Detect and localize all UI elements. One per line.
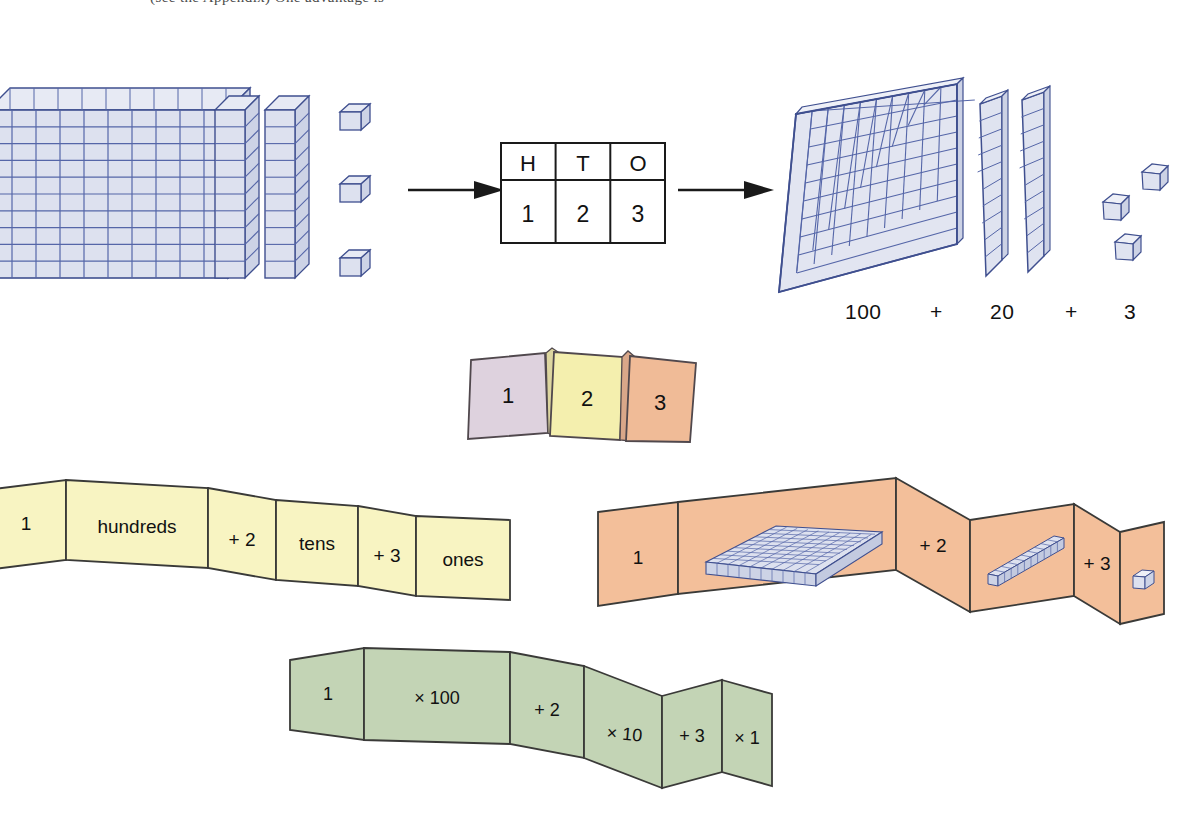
tens-rod-1 (215, 96, 259, 278)
ones-cube-2 (340, 176, 370, 202)
orange-panel-3-label: + 2 (920, 535, 947, 556)
digit-cards-group: 1 2 3 (468, 348, 698, 448)
tens-rod-perspective-1 (978, 90, 1008, 276)
ones-cube-perspective-2 (1142, 164, 1168, 190)
orange-panel-4[interactable] (970, 504, 1074, 612)
orange-panel-5[interactable]: + 3 (1074, 504, 1120, 624)
digit-card-3-label: 3 (654, 390, 666, 415)
green-panel-6-label: × 1 (734, 728, 760, 748)
hundreds-flat-perspective (779, 78, 975, 292)
orange-panel-6[interactable] (1120, 522, 1164, 624)
yellow-panel-2-label: hundreds (97, 516, 176, 537)
yellow-panel-2[interactable]: hundreds (66, 480, 208, 568)
digit-card-2-label: 2 (581, 386, 593, 411)
orange-panel-1-label: 1 (633, 547, 644, 568)
yellow-panel-5-label: + 3 (374, 545, 401, 566)
green-panel-2-label: × 100 (414, 688, 460, 708)
orange-panel-2[interactable] (678, 478, 896, 594)
green-panel-4[interactable]: × 10 (584, 666, 662, 788)
multiplicative-expanded-form-strip: 1 × 100 + 2 × 10 + 3 × 1 (288, 638, 808, 783)
green-panel-2[interactable]: × 100 (364, 648, 510, 744)
hundreds-flat (0, 88, 250, 278)
green-panel-5-label: + 3 (679, 726, 705, 746)
orange-panel-1[interactable]: 1 (598, 502, 678, 606)
pictorial-expanded-form-strip: 1 (596, 474, 1177, 604)
yellow-panel-4[interactable]: tens (276, 500, 358, 586)
table-value-o: 3 (632, 201, 645, 227)
yellow-panel-6[interactable]: ones (416, 516, 510, 600)
green-panel-4-label: × 10 (606, 723, 643, 746)
green-panel-3-label: + 2 (534, 700, 560, 720)
digit-card-3[interactable]: 3 (620, 351, 696, 442)
digit-card-2[interactable]: 2 (546, 348, 624, 440)
table-value-t: 2 (577, 201, 590, 227)
green-panel-3[interactable]: + 2 (510, 652, 584, 758)
table-header-h: H (520, 151, 536, 176)
arrow-blocks-to-table (406, 178, 514, 202)
digit-card-1[interactable]: 1 (468, 353, 548, 439)
yellow-panel-3[interactable]: + 2 (208, 488, 276, 580)
base-ten-blocks-frontal (0, 78, 398, 288)
diagram-canvas: (see the Appendix) One advantage is (0, 0, 1177, 819)
place-value-table: H T O 1 2 3 (500, 142, 668, 246)
green-panel-1[interactable]: 1 (290, 648, 364, 740)
ones-cube-perspective-3 (1115, 234, 1141, 260)
label-ones-value: 3 (1124, 300, 1136, 324)
label-plus-2: + (1065, 300, 1078, 324)
green-panel-1-label: 1 (323, 684, 333, 704)
orange-panel-3[interactable]: + 2 (896, 478, 970, 612)
yellow-panel-6-label: ones (442, 549, 483, 570)
table-value-h: 1 (522, 201, 535, 227)
ones-cube-perspective-1 (1103, 194, 1129, 220)
yellow-panel-4-label: tens (299, 533, 335, 554)
tens-rod-perspective-2 (1020, 86, 1050, 272)
tens-rod-2 (265, 96, 309, 278)
word-expanded-form-strip: 1 hundreds + 2 tens + 3 ones (0, 478, 546, 593)
label-hundreds-value: 100 (845, 300, 882, 324)
cut-off-body-text: (see the Appendix) One advantage is (0, 0, 1177, 5)
yellow-panel-1[interactable]: 1 (0, 480, 66, 570)
digit-card-1-label: 1 (502, 383, 514, 408)
table-header-t: T (576, 151, 589, 176)
yellow-panel-3-label: + 2 (229, 529, 256, 550)
green-panel-5[interactable]: + 3 (662, 680, 722, 788)
yellow-panel-1-label: 1 (21, 513, 32, 534)
label-plus-1: + (930, 300, 943, 324)
ones-cube-3 (340, 250, 370, 276)
green-panel-6[interactable]: × 1 (722, 680, 772, 786)
orange-panel-5-label: + 3 (1084, 553, 1111, 574)
base-ten-blocks-perspective (752, 72, 1177, 294)
table-header-o: O (629, 151, 646, 176)
label-tens-value: 20 (990, 300, 1014, 324)
ones-cube-1 (340, 104, 370, 130)
yellow-panel-5[interactable]: + 3 (358, 506, 416, 596)
